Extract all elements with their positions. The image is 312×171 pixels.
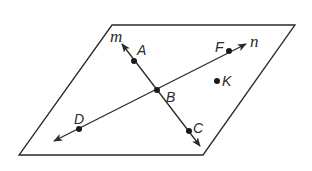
- point-b-label: B: [166, 89, 175, 105]
- line-m-label: m: [110, 27, 122, 46]
- point-c-dot: [186, 128, 192, 134]
- geometry-diagram: m n A B C D F K: [0, 0, 312, 171]
- point-b-dot: [154, 87, 160, 93]
- point-d-label: D: [74, 111, 84, 127]
- point-a-label: A: [136, 42, 146, 58]
- point-c-label: C: [193, 120, 204, 136]
- point-a-dot: [131, 58, 137, 64]
- point-k-label: K: [222, 73, 232, 89]
- point-f-label: F: [215, 39, 225, 55]
- point-f-dot: [226, 48, 232, 54]
- line-n-label: n: [250, 32, 259, 51]
- points-group: A B C D F K: [74, 39, 232, 136]
- point-k-dot: [214, 78, 220, 84]
